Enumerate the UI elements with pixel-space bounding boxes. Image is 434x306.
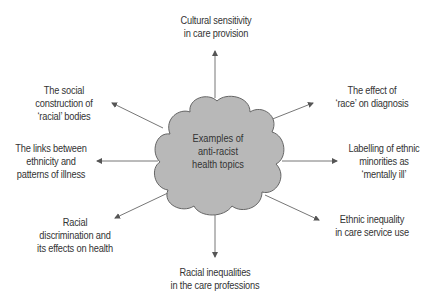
topic-line: ‘racial’ bodies (27, 110, 101, 123)
topic-left: The links between ethnicity and patterns… (11, 142, 90, 181)
center-line-2: anti-racist (181, 145, 255, 158)
topic-line: ethnicity and (11, 155, 90, 168)
topic-line: The links between (11, 142, 90, 155)
topic-line: Cultural sensitivity (177, 14, 254, 27)
arrow-upper-left (112, 103, 163, 128)
topic-upper-right: The effect of ‘race’ on diagnosis (328, 84, 416, 110)
topic-lower-right: Ethnic inequality in care service use (328, 213, 416, 239)
topic-top: Cultural sensitivity in care provision (177, 14, 254, 40)
topic-line: Racial inequalities (167, 266, 264, 279)
center-line-1: Examples of (181, 132, 255, 145)
arrow-lower-right (265, 195, 319, 220)
center-label: Examples of anti-racist health topics (181, 132, 255, 171)
topic-line: construction of (27, 97, 101, 110)
topic-line: ‘mentally ill’ (342, 168, 426, 181)
topic-upper-left: The social construction of ‘racial’ bodi… (27, 84, 101, 123)
center-line-3: health topics (181, 158, 255, 171)
topic-bottom: Racial inequalities in the care professi… (167, 266, 264, 292)
topic-line: The social (27, 84, 101, 97)
arrow-upper-right (270, 103, 313, 120)
topic-line: Racial (35, 216, 114, 229)
topic-line: Labelling of ethnic (342, 142, 426, 155)
topic-line: The effect of (328, 84, 416, 97)
topic-line: in the care professions (167, 279, 264, 292)
topic-line: in care service use (328, 226, 416, 239)
topic-line: patterns of illness (11, 168, 90, 181)
topic-line: in care provision (177, 27, 254, 40)
topic-line: discrimination and (35, 229, 114, 242)
topic-right: Labelling of ethnic minorities as ‘menta… (342, 142, 426, 181)
topic-line: its effects on health (35, 242, 114, 255)
topic-line: Ethnic inequality (328, 213, 416, 226)
arrow-lower-left (115, 192, 170, 218)
topic-line: ‘race’ on diagnosis (328, 97, 416, 110)
topic-lower-left: Racial discrimination and its effects on… (35, 216, 114, 255)
topic-line: minorities as (342, 155, 426, 168)
